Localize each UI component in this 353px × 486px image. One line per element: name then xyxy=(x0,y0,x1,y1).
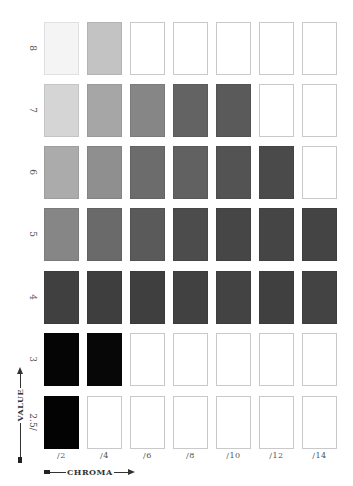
color-chip xyxy=(173,271,208,324)
axis-line xyxy=(20,374,21,388)
color-chip xyxy=(130,271,165,324)
color-chip xyxy=(44,271,79,324)
chroma-axis-title: CHROMA xyxy=(66,467,114,477)
color-chip xyxy=(87,333,122,386)
arrow-right-icon xyxy=(128,469,135,475)
color-chip xyxy=(87,271,122,324)
empty-chip-slot xyxy=(173,396,208,449)
axis-line xyxy=(50,472,66,473)
value-tick-label: 3 xyxy=(27,339,39,379)
empty-chip-slot xyxy=(259,396,294,449)
empty-chip-slot xyxy=(259,84,294,137)
chroma-tick-label: /4 xyxy=(87,451,122,460)
color-chip xyxy=(87,208,122,261)
color-chip xyxy=(87,84,122,137)
color-chip xyxy=(44,208,79,261)
color-chip xyxy=(130,146,165,199)
color-chip xyxy=(259,208,294,261)
chroma-axis-arrow: CHROMA xyxy=(44,466,135,478)
color-chip xyxy=(173,146,208,199)
empty-chip-slot xyxy=(173,333,208,386)
color-chip xyxy=(173,208,208,261)
color-chip xyxy=(302,208,337,261)
munsell-value-chroma-chart: 8765432.5/ /2/4/6/8/10/12/14 VALUE CHROM… xyxy=(0,0,353,486)
empty-chip-slot xyxy=(216,396,251,449)
axis-line xyxy=(114,472,128,473)
value-tick-label: 2.5/ xyxy=(27,402,39,442)
color-chip xyxy=(44,333,79,386)
color-chip xyxy=(259,271,294,324)
empty-chip-slot xyxy=(302,333,337,386)
chroma-tick-label: /8 xyxy=(173,451,208,460)
value-tick-label: 7 xyxy=(27,90,39,130)
value-tick-label: 5 xyxy=(27,214,39,254)
empty-chip-slot xyxy=(173,22,208,75)
chroma-tick-label: /10 xyxy=(216,451,251,460)
color-chip xyxy=(216,271,251,324)
value-axis-title: VALUE xyxy=(15,388,25,423)
chroma-tick-label: /14 xyxy=(302,451,337,460)
color-chip xyxy=(302,271,337,324)
empty-chip-slot xyxy=(130,333,165,386)
color-chip xyxy=(130,84,165,137)
empty-chip-slot xyxy=(216,22,251,75)
color-chip xyxy=(216,208,251,261)
color-chip xyxy=(87,146,122,199)
empty-chip-slot xyxy=(302,84,337,137)
empty-chip-slot xyxy=(87,396,122,449)
color-chip xyxy=(259,146,294,199)
empty-chip-slot xyxy=(130,396,165,449)
value-tick-label: 4 xyxy=(27,277,39,317)
axis-line xyxy=(20,423,21,457)
color-chip xyxy=(87,22,122,75)
color-chip xyxy=(44,84,79,137)
arrow-tail-icon xyxy=(18,457,22,463)
value-tick-label: 6 xyxy=(27,152,39,192)
color-chip xyxy=(216,84,251,137)
empty-chip-slot xyxy=(130,22,165,75)
color-chip xyxy=(44,22,79,75)
color-chip xyxy=(44,396,79,449)
value-axis-arrow: VALUE xyxy=(14,367,26,463)
color-chip xyxy=(173,84,208,137)
empty-chip-slot xyxy=(302,146,337,199)
empty-chip-slot xyxy=(216,333,251,386)
value-tick-label: 8 xyxy=(27,28,39,68)
color-chip xyxy=(44,146,79,199)
empty-chip-slot xyxy=(259,333,294,386)
arrow-up-icon xyxy=(17,367,23,374)
chroma-tick-label: /2 xyxy=(44,451,79,460)
color-chip xyxy=(130,208,165,261)
empty-chip-slot xyxy=(259,22,294,75)
chroma-tick-label: /6 xyxy=(130,451,165,460)
color-chip xyxy=(216,146,251,199)
empty-chip-slot xyxy=(302,396,337,449)
chroma-tick-label: /12 xyxy=(259,451,294,460)
empty-chip-slot xyxy=(302,22,337,75)
